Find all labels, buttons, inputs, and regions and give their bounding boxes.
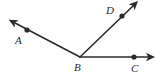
point-c-dot bbox=[131, 54, 136, 59]
point-a-label: A bbox=[14, 34, 22, 46]
geometry-figure: A D C B bbox=[0, 0, 155, 78]
point-d-dot bbox=[119, 13, 124, 18]
point-a-dot bbox=[24, 27, 29, 32]
vertex-b-label: B bbox=[74, 61, 81, 73]
point-d-label: D bbox=[105, 4, 114, 16]
ray-ba-line bbox=[15, 23, 80, 57]
point-c-label: C bbox=[131, 62, 139, 74]
ray-diagram-canvas: A D C B bbox=[0, 0, 155, 78]
